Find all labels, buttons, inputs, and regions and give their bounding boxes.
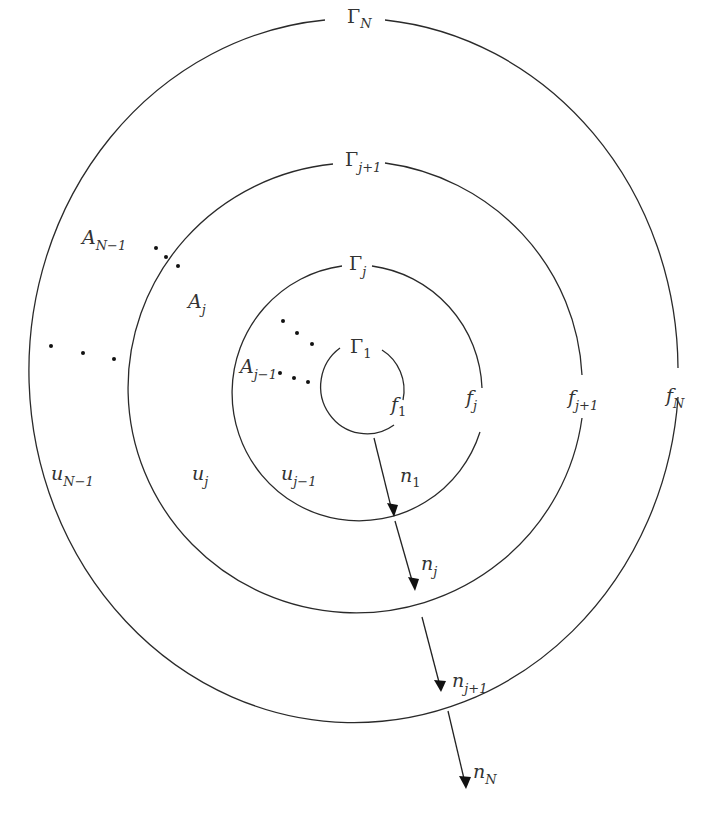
arrowhead-icon [408, 577, 419, 591]
label-f-N: fN [664, 384, 685, 411]
ellipsis-dots [49, 246, 314, 384]
label-gamma-1: Γ1 [350, 335, 371, 361]
normal-arrow-j [395, 521, 413, 584]
label-u-j: uj [192, 462, 208, 489]
label-f-j: fj [464, 386, 477, 413]
label-n-N: nN [473, 760, 497, 787]
normal-arrow-1 [374, 438, 392, 511]
label-u-j-minus-1: uj−1 [281, 462, 316, 489]
label-A-j: Aj [186, 290, 206, 317]
label-gamma-j-plus-1: Γj+1 [345, 148, 381, 175]
arrowhead-icon [434, 680, 446, 692]
label-gamma-N: ΓN [347, 5, 372, 31]
label-A-j-minus-1: Aj−1 [238, 355, 277, 382]
boundary-gamma-j-plus-1 [128, 163, 582, 613]
normal-arrow-j-plus-1 [422, 617, 440, 686]
boundary-gamma-N [29, 20, 678, 723]
label-n-j: nj [421, 552, 437, 579]
label-n-1: n1 [400, 464, 421, 490]
normal-arrows [374, 438, 471, 789]
boundary-gamma-j [232, 266, 482, 521]
label-A-N-minus-1: AN−1 [80, 226, 126, 253]
normal-arrow-N [448, 711, 465, 783]
concentric-domains-diagram: ΓN Γj+1 Γj Γ1 f1 fj fj+1 fN n1 nj nj+1 n… [0, 0, 717, 815]
label-gamma-j: Γj [349, 252, 366, 279]
label-n-j-plus-1: nj+1 [452, 669, 487, 696]
label-f-j-plus-1: fj+1 [566, 386, 598, 413]
arrowhead-icon [459, 776, 471, 789]
label-u-N-minus-1: uN−1 [51, 462, 94, 489]
